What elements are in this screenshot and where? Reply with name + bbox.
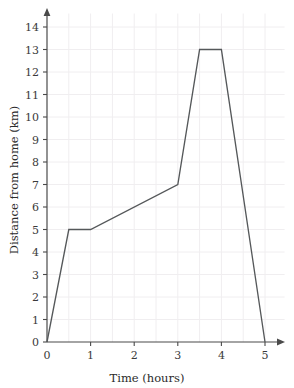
y-tick-label: 12 [25,66,39,79]
y-tick-label: 8 [32,156,39,169]
x-tick-label: 0 [44,349,51,362]
y-tick-label: 2 [32,291,39,304]
x-tick-label: 5 [262,349,269,362]
y-axis-title: Distance from home (km) [7,106,21,254]
x-axis-title: Time (hours) [110,371,185,385]
y-tick-label: 10 [25,111,39,124]
x-tick-label: 3 [174,349,181,362]
y-tick-label: 9 [32,134,39,147]
chart-background [0,0,294,388]
y-tick-label: 3 [32,269,39,282]
y-tick-label: 6 [32,201,39,214]
chart-canvas: 01234567891011121314012345 Time (hours) … [0,0,294,388]
y-tick-label: 5 [32,224,39,237]
x-tick-label: 4 [218,349,225,362]
y-tick-label: 7 [32,179,39,192]
y-tick-label: 1 [32,314,39,327]
x-tick-label: 2 [131,349,138,362]
y-tick-label: 11 [25,89,39,102]
y-tick-label: 4 [32,246,39,259]
distance-time-chart: 01234567891011121314012345 Time (hours) … [0,0,294,388]
y-tick-label: 14 [25,21,39,34]
y-tick-label: 13 [25,44,39,57]
x-tick-label: 1 [87,349,94,362]
y-tick-label: 0 [32,336,39,349]
